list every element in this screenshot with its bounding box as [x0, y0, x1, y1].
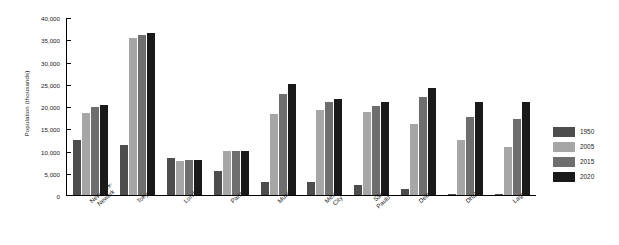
- legend-swatch: [553, 142, 575, 152]
- bar[interactable]: [457, 140, 465, 195]
- x-label-cell: London: [161, 197, 208, 245]
- bar[interactable]: [288, 84, 296, 195]
- bar[interactable]: [223, 151, 231, 195]
- bar[interactable]: [495, 194, 503, 195]
- y-axis-tick: [66, 152, 71, 153]
- bar[interactable]: [513, 119, 521, 195]
- bar[interactable]: [334, 99, 342, 195]
- bar[interactable]: [410, 124, 418, 195]
- bar-group: [114, 18, 161, 195]
- bar[interactable]: [129, 38, 137, 195]
- bar[interactable]: [176, 161, 184, 195]
- y-tick-label: 40,000: [41, 15, 60, 22]
- bar[interactable]: [270, 114, 278, 195]
- y-tick-label: 0: [57, 193, 60, 200]
- y-axis-tick: [66, 63, 71, 64]
- bar-group: [442, 18, 489, 195]
- bar[interactable]: [261, 182, 269, 195]
- bar[interactable]: [307, 182, 315, 195]
- legend-item[interactable]: 1950: [553, 126, 615, 137]
- population-bar-chart: Population (thousands) 40,00035,00030,00…: [0, 0, 619, 245]
- x-label-cell: MexicoCity: [302, 197, 349, 245]
- legend-swatch: [553, 172, 575, 182]
- y-tick-label: 10,000: [41, 148, 60, 155]
- bar[interactable]: [428, 88, 436, 195]
- legend-item[interactable]: 2020: [553, 171, 615, 182]
- bar[interactable]: [91, 107, 99, 195]
- y-axis-tick: [66, 85, 71, 86]
- bar[interactable]: [279, 94, 287, 195]
- bar-group: [67, 18, 114, 195]
- legend-swatch: [553, 157, 575, 167]
- bar[interactable]: [381, 102, 389, 195]
- y-tick-label: 30,000: [41, 59, 60, 66]
- y-axis-tick: [66, 18, 71, 19]
- x-label-cell: Delhi: [395, 197, 442, 245]
- bar[interactable]: [73, 140, 81, 195]
- bar[interactable]: [522, 102, 530, 195]
- x-label-cell: Paris: [208, 197, 255, 245]
- bar[interactable]: [363, 112, 371, 195]
- bar-group: [302, 18, 349, 195]
- x-axis-tick-labels: New York-NewarkTokyoLondonParisMumbaiMex…: [67, 197, 536, 245]
- bar[interactable]: [372, 106, 380, 195]
- bar-groups: [67, 18, 536, 195]
- bar-group: [161, 18, 208, 195]
- legend-label: 1950: [580, 128, 594, 135]
- y-tick-label: 5,000: [45, 170, 60, 177]
- bar[interactable]: [147, 33, 155, 195]
- y-tick-label: 20,000: [41, 104, 60, 111]
- legend-swatch: [553, 127, 575, 137]
- y-tick-label: 15,000: [41, 126, 60, 133]
- legend-label: 2005: [580, 143, 594, 150]
- bar[interactable]: [138, 35, 146, 195]
- bar-group: [348, 18, 395, 195]
- y-axis-tick-labels: 40,00035,00030,00025,00020,00015,00010,0…: [20, 18, 60, 196]
- y-tick-label: 25,000: [41, 81, 60, 88]
- x-label-cell: New York-Newark: [67, 197, 114, 245]
- legend-item[interactable]: 2005: [553, 141, 615, 152]
- chart-legend: 1950200520152020: [553, 126, 615, 186]
- bar[interactable]: [354, 185, 362, 195]
- bar[interactable]: [214, 171, 222, 195]
- legend-item[interactable]: 2015: [553, 156, 615, 167]
- legend-label: 2020: [580, 173, 594, 180]
- bar[interactable]: [82, 113, 90, 195]
- y-axis-tick: [66, 40, 71, 41]
- x-label-cell: Mumbai: [255, 197, 302, 245]
- y-tick-label: 35,000: [41, 37, 60, 44]
- bar-group: [208, 18, 255, 195]
- bar[interactable]: [120, 145, 128, 195]
- bar-group: [255, 18, 302, 195]
- bar[interactable]: [167, 158, 175, 195]
- bar[interactable]: [475, 102, 483, 195]
- bar[interactable]: [504, 147, 512, 195]
- y-axis-tick: [66, 174, 71, 175]
- x-label-cell: SãoPaulo: [348, 197, 395, 245]
- bar[interactable]: [448, 194, 456, 195]
- bar[interactable]: [316, 110, 324, 195]
- bar[interactable]: [466, 117, 474, 195]
- x-label-cell: Dhaka: [442, 197, 489, 245]
- bar-group: [489, 18, 536, 195]
- x-label-cell: Tokyo: [114, 197, 161, 245]
- bar[interactable]: [232, 151, 240, 196]
- bar-group: [395, 18, 442, 195]
- x-label-cell: Lagos: [489, 197, 536, 245]
- y-axis-tick: [66, 107, 71, 108]
- bar[interactable]: [419, 97, 427, 195]
- plot-area: [66, 18, 536, 196]
- legend-label: 2015: [580, 158, 594, 165]
- bar[interactable]: [325, 102, 333, 195]
- y-axis-tick: [66, 129, 71, 130]
- bar[interactable]: [241, 151, 249, 196]
- bar[interactable]: [401, 189, 409, 195]
